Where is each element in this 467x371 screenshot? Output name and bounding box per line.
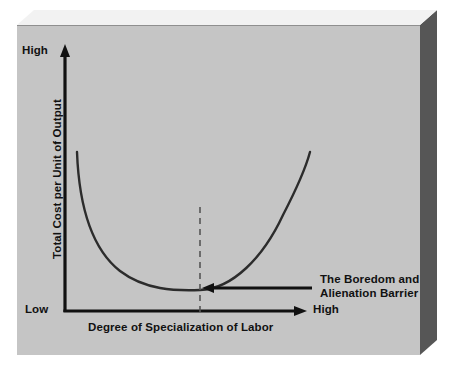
boredom-alienation-barrier-annotation: The Boredom and Alienation Barrier [320, 272, 419, 300]
chart-panel [17, 25, 420, 355]
y-axis-high-label: High [22, 44, 48, 56]
chart-figure: High Low High Degree of Specialization o… [0, 0, 467, 371]
y-axis-title: Total Cost per Unit of Output [51, 109, 63, 259]
annotation-line-2: Alienation Barrier [320, 286, 419, 300]
panel-side-face [420, 10, 437, 355]
x-axis-high-label: High [313, 303, 339, 315]
annotation-line-1: The Boredom and [320, 272, 419, 286]
panel-top-bevel [17, 10, 437, 25]
y-axis-low-label: Low [25, 303, 48, 315]
x-axis-title: Degree of Specialization of Labor [88, 321, 273, 333]
chart-canvas [0, 0, 467, 371]
